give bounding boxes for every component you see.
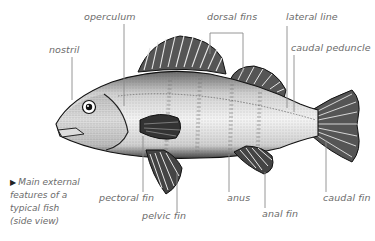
figure-caption: ▶Main external features of a typical fis… (10, 176, 100, 228)
label-lateral-line: lateral line (286, 11, 338, 22)
label-anus: anus (227, 192, 250, 203)
label-anal-fin: anal fin (262, 208, 298, 219)
caption-line-1: ▶Main external (10, 176, 100, 189)
label-nostril: nostril (49, 44, 79, 55)
label-operculum: operculum (84, 11, 136, 22)
caption-line-4: (side view) (10, 215, 100, 228)
caption-line-2: features of a (10, 189, 100, 202)
label-pectoral-fin: pectoral fin (99, 192, 154, 203)
caption-triangle-icon: ▶ (10, 178, 16, 187)
first-dorsal-fin (138, 36, 226, 74)
label-pelvic-fin: pelvic fin (142, 210, 186, 221)
caption-line-3: typical fish (10, 202, 100, 215)
caudal-fin (312, 90, 359, 162)
label-caudal-fin: caudal fin (323, 192, 371, 203)
label-caudal-peduncle: caudal peduncle (291, 42, 371, 53)
label-dorsal-fins: dorsal fins (207, 11, 257, 22)
